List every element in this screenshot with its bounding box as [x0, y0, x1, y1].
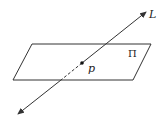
- line-l-lower: [18, 80, 61, 114]
- line-l-hidden-segment: [61, 63, 82, 80]
- label-pi: Π: [128, 48, 137, 59]
- diagram-canvas: L Π p: [0, 0, 159, 120]
- label-l: L: [148, 8, 156, 21]
- label-p: p: [88, 62, 95, 75]
- point-p: [80, 61, 84, 65]
